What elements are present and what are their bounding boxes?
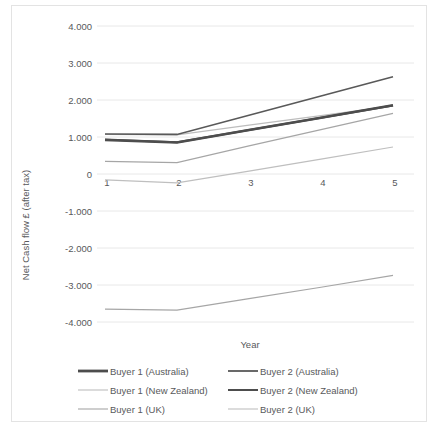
series-lines-group <box>105 77 393 310</box>
x-tick-label: 4 <box>320 177 325 188</box>
y-tick-label: 1.000 <box>68 132 92 143</box>
gridlines-group <box>97 26 414 322</box>
y-axis-title: Net Cash flow £ (after tax) <box>20 170 31 280</box>
x-axis-tick-labels: 12345 <box>104 177 397 188</box>
y-tick-label: 0 <box>87 169 92 180</box>
y-tick-label: 3.000 <box>68 58 92 69</box>
legend-label: Buyer 1 (Australia) <box>110 366 189 377</box>
series-line <box>105 275 393 310</box>
y-tick-label: 2.000 <box>68 95 92 106</box>
legend-label: Buyer 2 (New Zealand) <box>260 385 358 396</box>
x-tick-label: 3 <box>248 177 253 188</box>
chart-canvas: 4.0003.0002.0001.0000-1.000-2.000-3.000-… <box>0 0 441 437</box>
y-tick-label: 4.000 <box>68 21 92 32</box>
y-tick-label: -1.000 <box>65 206 92 217</box>
legend-label: Buyer 1 (New Zealand) <box>110 385 208 396</box>
y-tick-label: -3.000 <box>65 280 92 291</box>
line-chart: 4.0003.0002.0001.0000-1.000-2.000-3.000-… <box>0 0 441 437</box>
series-line <box>105 113 393 162</box>
x-axis-title: Year <box>240 339 259 350</box>
x-tick-label: 1 <box>104 177 109 188</box>
legend-label: Buyer 2 (UK) <box>260 404 315 415</box>
legend-label: Buyer 2 (Australia) <box>260 366 339 377</box>
legend: Buyer 1 (Australia)Buyer 2 (Australia)Bu… <box>78 366 358 415</box>
y-tick-label: -4.000 <box>65 317 92 328</box>
x-tick-label: 5 <box>392 177 397 188</box>
y-axis-tick-labels: 4.0003.0002.0001.0000-1.000-2.000-3.000-… <box>65 21 92 328</box>
y-tick-label: -2.000 <box>65 243 92 254</box>
legend-label: Buyer 1 (UK) <box>110 404 165 415</box>
